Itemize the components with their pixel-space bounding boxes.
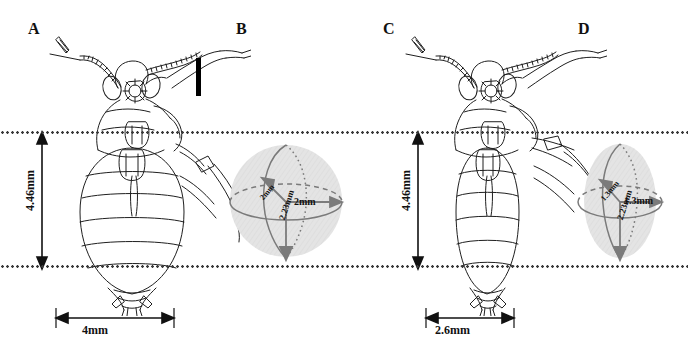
dimension-arrows-panel-a [24, 128, 204, 343]
dimension-label-a-vertical: 4.46mm [23, 163, 38, 219]
dimension-label-c-horizontal: 2.6mm [435, 323, 470, 338]
dimension-arrows-panel-c [400, 128, 560, 343]
upper-reference-line [0, 131, 688, 134]
dimension-label-c-vertical: 4.46mm [399, 163, 414, 219]
lower-reference-line [0, 265, 688, 268]
figure-canvas: A B C D [0, 0, 688, 347]
dimension-label-b-horizontal: 2mm [294, 196, 316, 207]
dimension-label-a-horizontal: 4mm [82, 323, 108, 338]
scale-bar-panel-a [196, 58, 201, 96]
